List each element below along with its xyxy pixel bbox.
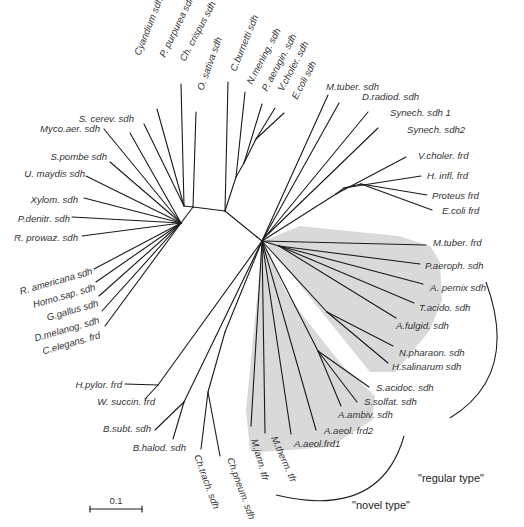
regular-type-label: "regular type" xyxy=(418,472,484,484)
tree-branch xyxy=(72,217,181,223)
taxon-label: S.solfat. sdh xyxy=(364,396,417,407)
tree-branch xyxy=(181,84,184,206)
tree-branch xyxy=(193,207,225,211)
taxon-label: Proteus frd xyxy=(432,190,480,201)
tree-branch xyxy=(184,206,193,207)
taxon-label: U. maydis sdh xyxy=(24,168,85,179)
tree-branch xyxy=(157,109,184,206)
tree-branch xyxy=(361,184,427,195)
taxon-label: S. cerev. sdh xyxy=(79,113,134,124)
taxon-label: M.tuber. frd xyxy=(433,237,482,248)
taxon-label: Xylom. sdh xyxy=(30,194,78,205)
taxon-label: H.pylor. frd xyxy=(75,379,122,390)
scale-bar-label: 0.1 xyxy=(109,495,122,506)
novel-type-label: "novel type" xyxy=(352,499,410,511)
taxon-label: A. pernix sdh xyxy=(429,282,486,293)
tree-branch xyxy=(265,112,368,237)
taxon-label: R. prowaz. sdh xyxy=(14,232,78,243)
tree-branch xyxy=(125,384,158,385)
taxon-label: D.radiod. sdh xyxy=(362,91,419,102)
tree-branch xyxy=(193,112,196,207)
tree-branch xyxy=(96,223,181,282)
tree-branch xyxy=(225,177,236,211)
taxon-label: A.aeol.frd1 xyxy=(293,438,340,449)
taxon-label: N.pharaon. sdh xyxy=(399,347,465,358)
tree-branch xyxy=(336,157,406,194)
taxon-label: A.fulgid. sdh xyxy=(395,320,449,331)
tree-branch xyxy=(181,207,193,223)
taxon-label: Ch.pneum. sdh xyxy=(225,456,258,521)
taxon-label: E.coli frd xyxy=(442,205,480,216)
tree-branch xyxy=(265,128,378,237)
taxon-label: W. succin. frd xyxy=(97,396,155,407)
scale-bar: 0.1 xyxy=(90,495,142,512)
tree-branch xyxy=(208,332,225,392)
tree-branch xyxy=(105,223,181,326)
tree-branch xyxy=(225,82,228,211)
taxon-label: Synech. sdh 1 xyxy=(390,107,451,118)
taxon-label: T.acido. sdh xyxy=(419,302,470,313)
tree-branch xyxy=(86,176,181,223)
tree-branch xyxy=(82,223,181,236)
tree-branch xyxy=(262,103,339,241)
tree-branch xyxy=(225,211,257,237)
taxon-label: H. infl. frd xyxy=(427,170,469,181)
taxon-label: S.acidoc. sdh xyxy=(376,382,434,393)
taxon-label: A.ambiv. sdh xyxy=(337,409,393,420)
taxon-label: Myco.aer. sdh xyxy=(40,123,100,134)
tree-branch xyxy=(257,237,262,241)
taxon-label: H.salinarum sdh xyxy=(392,361,461,372)
phylogenetic-tree: Cyandium sdhP. purpurea sdhCh. crispus s… xyxy=(0,0,524,527)
tree-branch xyxy=(262,95,328,241)
tree-branch xyxy=(344,176,421,188)
tree-branch xyxy=(208,392,220,456)
tree-branch xyxy=(361,184,432,210)
taxon-label: A.aeol. frd2 xyxy=(323,425,374,436)
taxon-label: S.pombe sdh xyxy=(50,151,107,162)
taxon-label: P.aeroph. sdh xyxy=(425,260,484,271)
tree-branch xyxy=(158,241,262,385)
taxon-label: Ch.trach. sdh xyxy=(192,453,222,510)
taxon-label: V.choler. frd xyxy=(418,150,469,161)
tree-branch xyxy=(201,392,208,449)
taxon-label: B.halod. sdh xyxy=(133,442,186,453)
taxon-label: Synech. sdh2 xyxy=(407,124,466,135)
tree-branch xyxy=(102,223,181,311)
taxon-label: P.denitr. sdh xyxy=(18,213,70,224)
taxon-label: O. sativa sdh xyxy=(195,35,224,91)
taxon-label: B.subt. sdh xyxy=(103,423,151,434)
